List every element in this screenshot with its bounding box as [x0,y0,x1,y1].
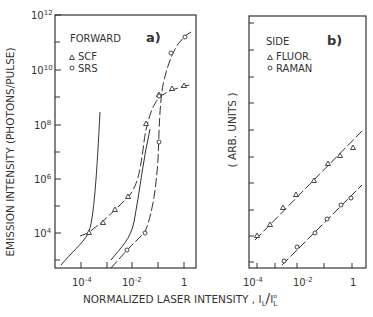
svg-text:1: 1 [350,277,356,288]
panel-b-x-ticks [257,263,352,268]
panel-a-x-tick-labels: 10-4 10-2 1 [72,276,187,288]
svg-text:RAMAN: RAMAN [276,63,312,74]
circle-marker-icon [70,66,74,70]
panel-a-y-tick-labels: 1012 1010 108 106 104 [31,9,53,239]
svg-text:10-4: 10-4 [72,276,92,288]
srs-dashed-curve [111,32,191,268]
panel-a-y-ticks [55,15,61,260]
svg-text:SIDE: SIDE [266,36,289,47]
panel-a-scf-markers [87,83,187,235]
svg-text:1012: 1012 [31,9,53,21]
svg-text:10-2: 10-2 [122,276,142,288]
panel-b-x-tick-labels: 10-4 10-2 1 [243,276,356,288]
panel-a-legend: FORWARD SCF SRS [70,33,122,74]
x-axis-label: NORMALIZED LASER INTENSITY , IL/ILo [83,290,277,308]
svg-text:104: 104 [34,227,52,239]
y-axis-label-left: EMISSION INTENSITY (PHOTONS/PULSE) [4,47,16,256]
triangle-marker-icon [268,55,273,60]
svg-text:1: 1 [181,277,187,288]
svg-text:108: 108 [34,119,51,131]
y-axis-label-right: ( ARB. UNITS ) [226,93,238,168]
triangle-marker-icon [70,55,75,60]
scf-dashed-curve [80,85,190,236]
panel-a-x-ticks [81,262,184,268]
legend-title: FORWARD [70,33,121,44]
panel-b-fluor-markers [255,145,356,238]
svg-text:NORMALIZED LASER INTENSITY , I: NORMALIZED LASER INTENSITY , IL/ILo [83,290,277,308]
circle-marker-icon [268,66,272,70]
svg-text:1010: 1010 [31,64,53,76]
svg-text:106: 106 [34,173,52,185]
panel-a-tag: a) [146,30,161,45]
svg-text:10-4: 10-4 [243,276,263,288]
figure: EMISSION INTENSITY (PHOTONS/PULSE) 1012 … [0,0,373,317]
svg-text:10-2: 10-2 [293,276,313,288]
panel-b-tag: b) [327,33,342,48]
legend-label-scf: SCF [78,51,97,62]
panel-a: 1012 1010 108 106 104 10-4 10-2 1 a) FOR… [31,9,196,288]
panel-b: 10-4 10-2 1 b) SIDE FLUOR. RAMAN [243,16,366,288]
svg-text:FLUOR.: FLUOR. [276,51,312,62]
legend-label-srs: SRS [78,63,98,74]
panel-b-legend: SIDE FLUOR. RAMAN [266,36,312,74]
solid-curve-left [61,112,100,265]
panel-b-y-ticks [249,23,254,262]
panel-a-frame [55,15,196,268]
